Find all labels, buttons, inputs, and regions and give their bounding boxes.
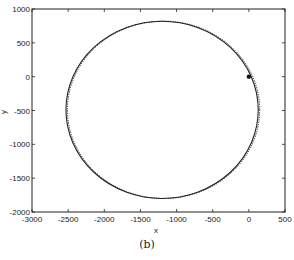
trajectory-curves: [66, 21, 260, 198]
start-marker: [247, 74, 251, 78]
tick-marks: [32, 9, 285, 212]
x-tick-label: 500: [278, 215, 292, 224]
y-tick-label: -2000: [10, 208, 31, 217]
x-tick-label: -1500: [130, 215, 151, 224]
x-tick-label: -500: [205, 215, 222, 224]
x-tick-label: -2500: [58, 215, 79, 224]
x-axis-label: x: [154, 226, 158, 235]
x-tick-label: -1000: [166, 215, 187, 224]
x-tick-label: -2000: [94, 215, 115, 224]
plot-frame: [32, 9, 285, 212]
figure-caption: (b): [0, 238, 294, 251]
y-tick-label: -500: [14, 107, 31, 116]
y-tick-label: 1000: [12, 5, 30, 14]
trajectory-solid: [66, 21, 258, 198]
chart-figure: -3000-2500-2000-1500-1000-5000500 100050…: [0, 0, 294, 260]
y-tick-label: 500: [17, 39, 31, 48]
x-tick-labels: -3000-2500-2000-1500-1000-5000500: [22, 215, 292, 224]
y-axis-label: y: [0, 110, 8, 114]
y-tick-labels: 10005000-500-1000-1500-2000: [10, 5, 31, 217]
x-tick-label: 0: [247, 215, 252, 224]
y-tick-label: -1000: [10, 140, 31, 149]
y-tick-label: -1500: [10, 174, 31, 183]
y-tick-label: 0: [26, 73, 31, 82]
